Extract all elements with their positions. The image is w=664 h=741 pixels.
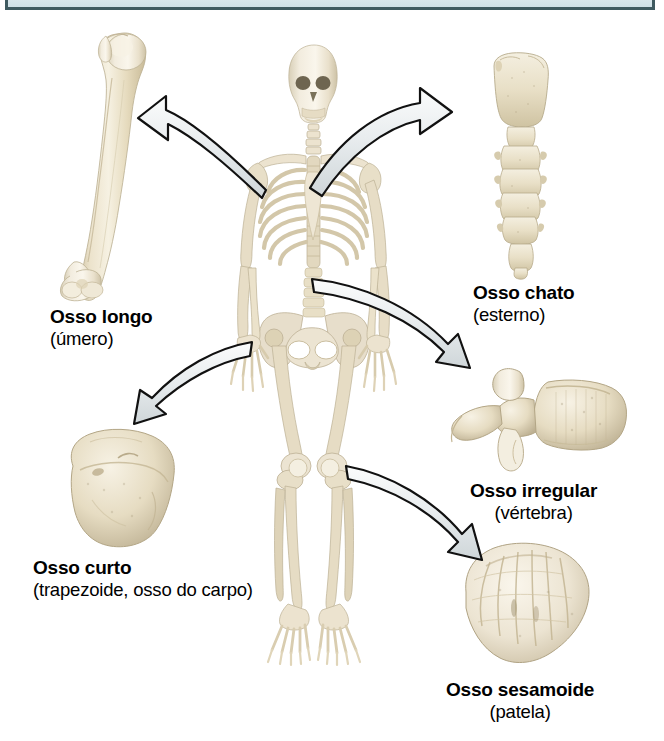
bone-classification-figure: Osso longo (úmero) Osso chato (esterno) … [0, 0, 664, 741]
label-sesamoid-bone-subtitle: (patela) [446, 701, 594, 723]
vertebra-bone-illustration [451, 369, 626, 471]
label-short-bone-subtitle: (trapezoide, osso do carpo) [33, 579, 253, 601]
label-short-bone: Osso curto (trapezoide, osso do carpo) [33, 557, 253, 601]
label-sesamoid-bone: Osso sesamoide (patela) [446, 679, 594, 723]
illustration-canvas [0, 0, 664, 741]
humerus-bone-illustration [60, 33, 146, 301]
label-flat-bone-subtitle: (esterno) [473, 304, 574, 326]
label-flat-bone-title: Osso chato [473, 282, 574, 304]
label-irregular-bone-title: Osso irregular [470, 480, 597, 502]
label-long-bone: Osso longo (úmero) [50, 306, 153, 350]
trapezoid-bone-illustration [71, 429, 174, 546]
label-short-bone-title: Osso curto [33, 557, 253, 579]
label-irregular-bone: Osso irregular (vértebra) [470, 480, 597, 524]
label-flat-bone: Osso chato (esterno) [473, 282, 574, 326]
label-long-bone-title: Osso longo [50, 306, 153, 328]
patella-bone-illustration [466, 543, 589, 662]
label-long-bone-subtitle: (úmero) [50, 328, 153, 350]
label-sesamoid-bone-title: Osso sesamoide [446, 679, 594, 701]
label-irregular-bone-subtitle: (vértebra) [470, 502, 597, 524]
arrow-to-trapezoid [134, 342, 252, 424]
arrow-to-patella [346, 466, 482, 560]
sternum-bone-illustration [494, 53, 548, 279]
arrow-to-humerus [138, 96, 266, 198]
